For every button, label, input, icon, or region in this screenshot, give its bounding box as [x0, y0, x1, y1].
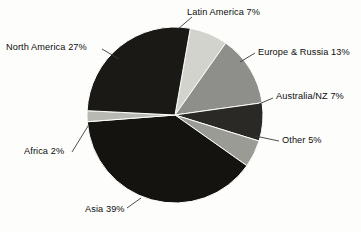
pie-chart-graphic [0, 0, 361, 232]
pie-slices [87, 27, 263, 203]
leader-line-asia [127, 198, 141, 208]
leader-line-africa [72, 126, 88, 152]
pie-label-north-america: North America 27% [6, 43, 87, 52]
pie-label-other: Other 5% [282, 136, 322, 145]
pie-slice-north-america [87, 27, 190, 115]
pie-label-latin-america: Latin America 7% [187, 8, 260, 17]
pie-label-africa: Africa 2% [24, 147, 64, 156]
pie-label-asia: Asia 39% [85, 205, 125, 214]
pie-chart-figure: Latin America 7% Europe & Russia 13% Aus… [0, 0, 361, 232]
pie-label-australia-nz: Australia/NZ 7% [276, 92, 344, 101]
pie-label-europe-russia: Europe & Russia 13% [258, 48, 350, 57]
